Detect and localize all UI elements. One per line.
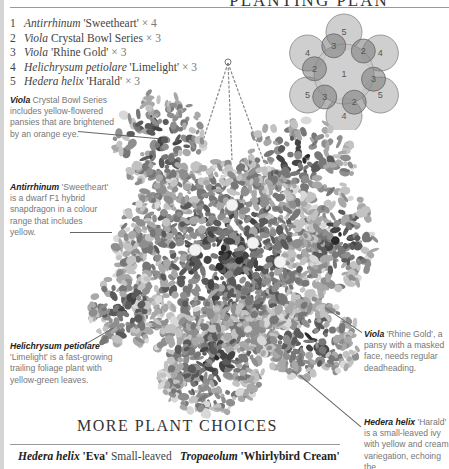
leaf (305, 352, 313, 360)
leaf (183, 144, 190, 148)
leaf (250, 211, 258, 218)
choice-text: Small-leaved (108, 450, 172, 462)
choice-genus: Tropaeolum (180, 450, 238, 462)
callout-viola-rhine: Viola 'Rhine Gold', a pansy with a maske… (364, 329, 444, 374)
leaf (260, 368, 266, 377)
flower (247, 237, 259, 249)
leaf (278, 340, 283, 344)
leaf (195, 120, 205, 130)
callout-text: pansy with a masked (364, 340, 444, 350)
callout-plant-name: Viola (364, 329, 384, 339)
callout-text: face, needs regular (364, 351, 438, 361)
leaf (152, 214, 157, 222)
callout-text: includes yellow-flowered (10, 106, 103, 116)
callout-text: snapdragon in a colour (10, 204, 97, 214)
callout-hedera: Hedera helix 'Harald' is a small-leaved … (364, 417, 449, 469)
callout-text: pansies that are brightened (10, 117, 114, 127)
leaf (181, 148, 192, 158)
leaf (224, 389, 230, 395)
callout-text: is a small-leaved ivy (364, 428, 441, 438)
callout-text: trailing foliage plant with (10, 363, 102, 373)
callout-viola-crystal: Viola Crystal Bowl Series includes yello… (10, 95, 114, 140)
callout-text: variegation, echoing the (364, 451, 441, 469)
leaf (162, 118, 170, 126)
choice-cultivar: 'Whirlybird Cream' (241, 450, 340, 462)
callout-text: deadheading. (364, 363, 416, 373)
callout-text: yellow. (10, 227, 36, 237)
callout-text: yellow-green leaves. (10, 375, 88, 385)
leaf (187, 190, 192, 195)
leaf (251, 190, 257, 198)
choice-genus: Hedera helix (18, 450, 80, 462)
callout-antirrhinum: Antirrhinum 'Sweetheart' is a dwarf F1 h… (10, 182, 108, 238)
leaf (220, 275, 225, 280)
leaf (90, 292, 100, 301)
flower (274, 256, 286, 268)
callout-text: 'Harald' (415, 417, 446, 427)
leaf (356, 196, 364, 203)
more-choices-title: MORE PLANT CHOICES (10, 417, 345, 435)
leaf (247, 153, 256, 162)
leaf (156, 95, 161, 104)
leaf (185, 103, 193, 107)
flower (226, 199, 238, 211)
flower (189, 244, 201, 256)
leaf (338, 232, 342, 237)
callout-plant-name: Helichrysum petiolare (10, 341, 100, 351)
callout-text: by an orange eye. (10, 129, 79, 139)
leaf (338, 167, 351, 177)
basket-foliage (87, 88, 380, 420)
choice-item: Hedera helix 'Eva' Small-leaved (18, 450, 172, 462)
leaf (135, 108, 141, 119)
choice-cultivar: 'Eva' (83, 450, 109, 462)
leaf (284, 120, 288, 124)
leaf (301, 117, 312, 125)
leaf (188, 126, 197, 135)
callout-helichrysum: Helichrysum petiolare 'Limelight' is a f… (10, 341, 113, 386)
more-choices-divider (10, 444, 340, 445)
leaf (287, 152, 294, 158)
callout-text: Crystal Bowl Series (30, 95, 107, 105)
leaf (213, 171, 219, 178)
basket-chains (200, 63, 265, 165)
leaf (243, 380, 247, 384)
callout-text: 'Rhine Gold', a (384, 329, 442, 339)
callout-text: with yellow and cream (364, 439, 449, 449)
leaf (111, 285, 116, 291)
callout-plant-name: Viola (10, 95, 30, 105)
leaf (115, 128, 123, 138)
leaf (276, 225, 283, 235)
callout-text: 'Sweetheart' (59, 182, 108, 192)
leaf (212, 242, 216, 247)
leaf (140, 151, 146, 156)
callout-plant-name: Antirrhinum (10, 182, 59, 192)
leaf (329, 326, 337, 334)
choice-item: Tropaeolum 'Whirlybird Cream' (180, 450, 340, 462)
callout-text: range that includes (10, 216, 83, 226)
callout-text: 'Limelight' is a fast-growing (10, 352, 113, 362)
callout-plant-name: Hedera helix (364, 417, 415, 427)
leaf (269, 123, 278, 133)
callout-text: is a dwarf F1 hybrid (10, 193, 85, 203)
leaf (261, 123, 269, 133)
leaf (305, 343, 315, 352)
